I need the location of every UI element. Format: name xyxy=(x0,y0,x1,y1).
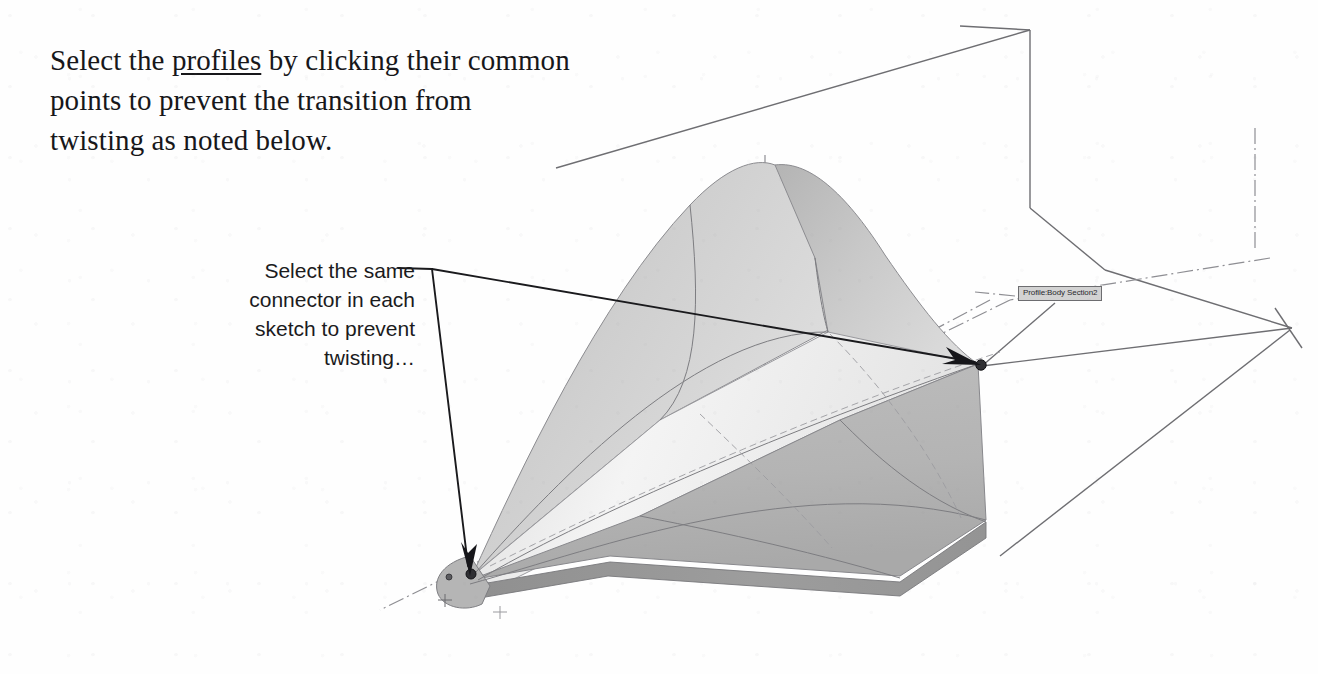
instruction-line-3: twisting as noted below. xyxy=(50,120,690,160)
leader-branch-to-left-connector xyxy=(432,269,468,566)
screenshot-page: Select the profiles by clicking their co… xyxy=(0,0,1318,674)
sketch-edge-slant-b xyxy=(1105,270,1292,328)
instruction-line-1-pre: Select the xyxy=(50,44,172,76)
selection-tooltip[interactable]: Profile:Body Section2 xyxy=(1018,286,1102,301)
connector-point-left-secondary[interactable] xyxy=(446,574,452,580)
callout-note: Select the same connector in each sketch… xyxy=(170,256,415,372)
sketch-edge-lower-long xyxy=(1000,330,1290,556)
sketch-edge-tooltip-leader xyxy=(982,303,1055,366)
profiles-link[interactable]: profiles xyxy=(172,44,261,76)
callout-line-1: Select the same xyxy=(170,256,415,285)
sketch-edge-top-short xyxy=(960,26,1030,30)
callout-line-2: connector in each xyxy=(170,285,415,314)
instruction-line-2: points to prevent the transition from xyxy=(50,80,690,120)
sketch-cross-icon xyxy=(493,606,507,619)
sketch-edge-slant-a xyxy=(1030,208,1105,270)
sketch-tick-right xyxy=(1275,308,1302,348)
instruction-line-1: Select the profiles by clicking their co… xyxy=(50,40,690,80)
lofted-solid-body[interactable] xyxy=(437,163,1000,609)
centerline-short-right xyxy=(975,292,1015,296)
instruction-paragraph: Select the profiles by clicking their co… xyxy=(50,40,690,160)
instruction-line-1-post: by clicking their common xyxy=(261,44,570,76)
sketch-edge-return xyxy=(982,328,1292,366)
selection-tooltip-label: Profile:Body Section2 xyxy=(1023,288,1097,297)
callout-line-4: twisting… xyxy=(170,343,415,372)
callout-line-3: sketch to prevent xyxy=(170,314,415,343)
